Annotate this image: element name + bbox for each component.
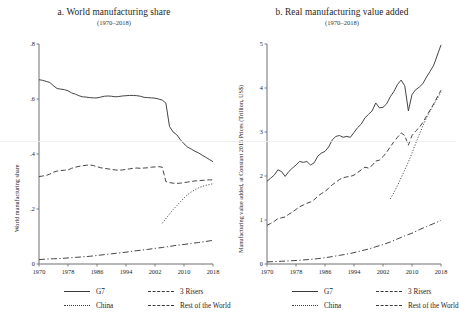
y-tick-label: 2 <box>260 172 263 179</box>
y-tick-label: 0 <box>32 260 35 267</box>
panel-b-y-axis-label: Manufacturing value added, at Constant 2… <box>237 85 244 253</box>
y-tick-label: 1 <box>260 216 263 223</box>
x-tick-label: 1970 <box>261 268 274 275</box>
y-tick-label: 4 <box>260 84 264 91</box>
panel-world-manufacturing-share: a. World manufacturing share (1970–2018)… <box>0 0 228 280</box>
legend-swatch-dashdot <box>376 305 402 308</box>
x-tick-label: 1970 <box>33 268 46 275</box>
legend-label: 3 Risers <box>180 286 203 298</box>
x-tick-label: 1986 <box>319 268 332 275</box>
panel-a-plot: 0.2.4.6.81970197819861994200220102018 <box>0 0 228 280</box>
legend-label: G7 <box>324 286 333 298</box>
x-tick-label: 1986 <box>91 268 104 275</box>
legend-swatch-dotted <box>292 305 318 308</box>
series-line-g7 <box>39 80 213 162</box>
x-tick-label: 1978 <box>290 268 303 275</box>
legend-label: Rest of the World <box>180 300 231 312</box>
panel-b-plot: 0123451970197819861994200220102018 <box>228 0 456 280</box>
x-tick-label: 1994 <box>348 268 361 275</box>
legend-swatch-solid <box>64 291 90 294</box>
legend-swatch-dashdot <box>148 305 174 308</box>
y-tick-label: .4 <box>30 150 36 157</box>
legend-label: G7 <box>96 286 105 298</box>
series-line-3-risers <box>39 165 213 183</box>
legend-swatch-dashed <box>148 291 174 294</box>
x-tick-label: 2018 <box>435 268 448 275</box>
series-line-rest-of-the-world <box>39 240 213 259</box>
x-tick-label: 2002 <box>149 268 162 275</box>
series-line-rest-of-the-world <box>267 220 441 261</box>
x-tick-label: 1994 <box>120 268 133 275</box>
y-tick-label: .2 <box>30 205 35 212</box>
x-tick-label: 2002 <box>377 268 390 275</box>
series-line-g7 <box>267 45 441 181</box>
legend-label: 3 Risers <box>408 286 431 298</box>
x-tick-label: 1978 <box>62 268 75 275</box>
panel-real-manufacturing-value-added: b. Real manufacturing value added (1970–… <box>228 0 456 280</box>
legend-label: China <box>96 300 113 312</box>
x-tick-label: 2010 <box>178 268 191 275</box>
legend-label: Rest of the World <box>408 300 459 312</box>
y-tick-label: 3 <box>260 128 263 135</box>
legend-label: China <box>324 300 341 312</box>
series-line-china <box>390 92 441 198</box>
series-line-3-risers <box>267 90 441 225</box>
series-line-china <box>162 184 213 224</box>
x-tick-label: 2018 <box>207 268 220 275</box>
x-tick-label: 2010 <box>406 268 419 275</box>
y-tick-label: .6 <box>30 95 35 102</box>
legend-container: G73 RisersChinaRest of the World G73 Ris… <box>0 286 456 327</box>
y-tick-label: 0 <box>260 260 263 267</box>
y-tick-label: 5 <box>260 40 263 47</box>
legend-swatch-solid <box>292 291 318 294</box>
legend-swatch-dotted <box>64 305 90 308</box>
legend-swatch-dashed <box>376 291 402 294</box>
y-tick-label: .8 <box>30 40 35 47</box>
